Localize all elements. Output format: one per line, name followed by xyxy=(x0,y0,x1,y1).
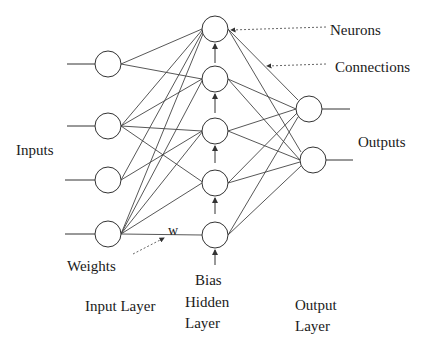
hidden-output-connections xyxy=(228,29,301,235)
hidden-layer-label-line2: Layer xyxy=(185,313,220,333)
output-lines xyxy=(322,109,353,160)
weight-symbol-label: w xyxy=(168,221,178,241)
input-lines xyxy=(65,64,95,234)
output-layer-label-line2: Layer xyxy=(295,316,330,336)
annotation-pointers xyxy=(133,27,326,254)
input-hidden-connections xyxy=(121,29,205,235)
neurons-label: Neurons xyxy=(330,20,381,40)
inputs-label: Inputs xyxy=(16,140,54,160)
connections-label: Connections xyxy=(335,57,410,77)
output-neurons xyxy=(296,96,326,173)
output-layer-label-line1: Output xyxy=(295,295,337,315)
input-neurons xyxy=(95,51,121,247)
outputs-label: Outputs xyxy=(358,132,406,152)
hidden-layer-label-line1: Hidden xyxy=(185,292,229,312)
input-layer-label: Input Layer xyxy=(85,296,155,316)
bias-label: Bias xyxy=(195,270,222,290)
weights-label: Weights xyxy=(67,256,116,276)
